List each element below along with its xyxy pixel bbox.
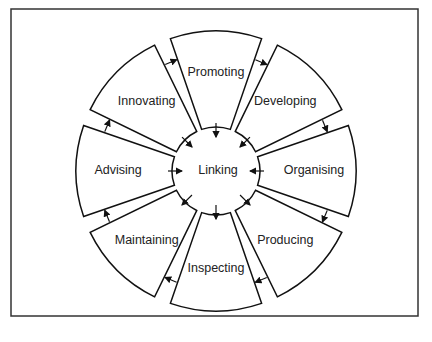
flow-arrow-icon (165, 60, 176, 65)
flow-arrow-icon (323, 120, 328, 131)
linking-wheel-diagram: PromotingDevelopingOrganisingProducingIn… (0, 0, 432, 342)
segment-label-promoting: Promoting (188, 65, 245, 79)
flow-arrow-icon (165, 278, 176, 283)
flow-arrow-icon (255, 60, 266, 65)
segment-label-developing: Developing (254, 94, 317, 108)
segment-label-producing: Producing (257, 233, 313, 247)
segment-label-organising: Organising (284, 163, 344, 177)
flow-arrow-icon (105, 210, 110, 221)
segment-label-innovating: Innovating (118, 94, 176, 108)
flow-arrow-icon (255, 278, 266, 283)
segment-label-inspecting: Inspecting (188, 261, 245, 275)
flow-arrow-icon (323, 210, 328, 221)
segment-label-advising: Advising (94, 163, 141, 177)
flow-arrow-icon (105, 120, 110, 131)
center-label-linking: Linking (198, 163, 238, 177)
segment-label-maintaining: Maintaining (115, 233, 179, 247)
